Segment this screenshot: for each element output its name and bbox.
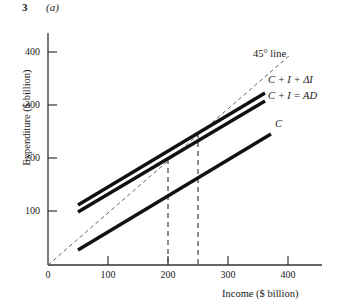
series-line-45-degree <box>48 55 290 265</box>
series-line-c-plus-i-plus-delta-i <box>78 93 265 205</box>
expenditure-income-figure: 3 (a) Expenditure ($ billion) Income ($ … <box>0 0 348 308</box>
plot-canvas <box>0 0 348 308</box>
y-tick-marks-group <box>48 52 57 211</box>
series-line-c <box>78 134 271 250</box>
